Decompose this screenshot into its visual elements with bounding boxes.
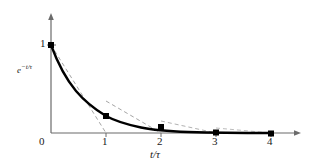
tangent-line-0 bbox=[51, 45, 106, 133]
y-axis-title: e−t/τ bbox=[17, 64, 32, 75]
data-point-markers bbox=[48, 42, 274, 137]
decay-curve bbox=[51, 45, 271, 133]
x-tick-label-4: 4 bbox=[267, 136, 273, 147]
y-tick-label-1: 1 bbox=[40, 38, 46, 49]
data-point-marker bbox=[158, 124, 164, 130]
data-point-marker bbox=[103, 113, 109, 119]
x-tick-label-3: 3 bbox=[212, 136, 218, 147]
x-tick-label-1: 1 bbox=[102, 136, 108, 147]
y-axis-title-exponent: −t/τ bbox=[21, 63, 32, 71]
tangent-lines bbox=[51, 45, 271, 133]
data-point-marker bbox=[48, 42, 54, 48]
exponential-decay-figure: 0 1 2 3 4 1 t/τ e−t/τ bbox=[0, 0, 317, 167]
x-tick-label-2: 2 bbox=[157, 136, 163, 147]
x-tick-label-0: 0 bbox=[39, 136, 45, 147]
x-axis-title: t/τ bbox=[150, 149, 160, 160]
y-axis bbox=[48, 13, 54, 133]
